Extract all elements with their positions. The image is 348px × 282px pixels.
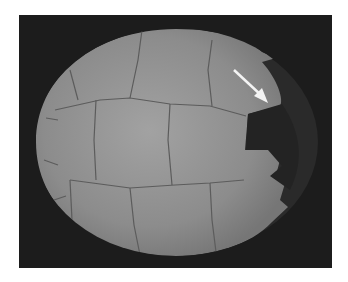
turtle-shell-illustration <box>0 0 348 282</box>
